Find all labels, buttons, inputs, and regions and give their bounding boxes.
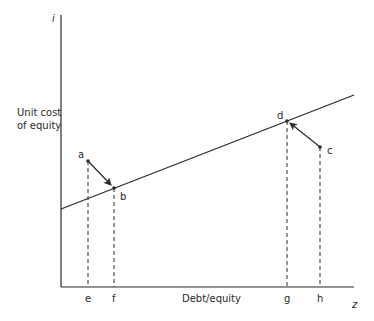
tick-label-g: g — [284, 293, 290, 304]
point-d-label: d — [277, 110, 283, 121]
diagram-canvas: i Unit cost of equity a b c d e f Debt/e… — [0, 0, 374, 321]
point-b — [112, 186, 116, 190]
point-a — [86, 159, 90, 163]
y-axis-label-line1: Unit cost — [17, 107, 61, 118]
arrow-c-to-d — [290, 123, 320, 147]
point-c — [318, 145, 322, 149]
tick-label-e: e — [85, 293, 91, 304]
point-c-label: c — [327, 145, 333, 156]
point-d — [285, 119, 289, 123]
x-axis-symbol: z — [351, 299, 358, 310]
tick-label-f: f — [112, 293, 116, 304]
tick-label-h: h — [317, 293, 323, 304]
x-axis-label: Debt/equity — [182, 293, 241, 304]
y-axis-symbol: i — [52, 13, 55, 24]
y-axis-label-line2: of equity — [17, 120, 61, 131]
cost-of-equity-line — [61, 95, 354, 209]
point-a-label: a — [78, 149, 84, 160]
arrow-a-to-b — [88, 161, 111, 185]
point-b-label: b — [120, 191, 126, 202]
